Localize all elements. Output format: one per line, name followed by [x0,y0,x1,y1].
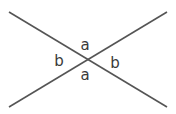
angle-label-left: b [54,52,64,70]
angle-label-right: b [110,54,120,72]
angle-label-bottom: a [80,66,89,84]
angle-label-top: a [80,36,89,54]
vertical-angles-diagram: a b b a [0,0,176,114]
